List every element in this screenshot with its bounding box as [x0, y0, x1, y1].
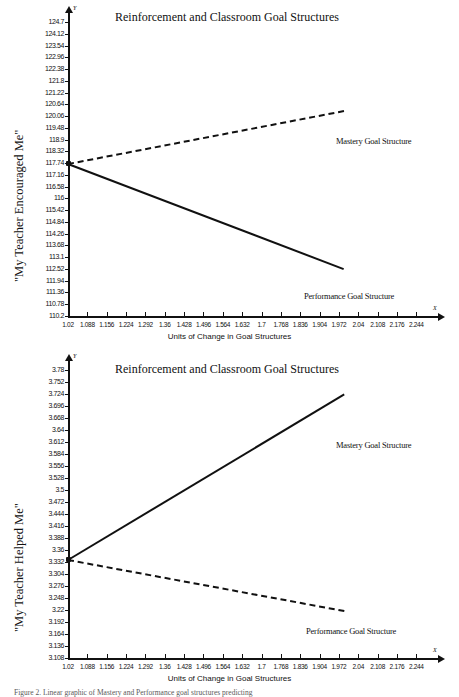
y-axis-tick-label: 3.696 — [22, 402, 64, 409]
y-axis-tick — [65, 514, 69, 515]
x-axis-tick — [126, 654, 127, 658]
x-axis-tick — [262, 654, 263, 658]
y-axis-tick-label: 116 — [22, 194, 64, 201]
y-axis-tick — [65, 526, 69, 527]
y-axis-tick — [65, 245, 69, 246]
y-axis-tick — [65, 478, 69, 479]
y-axis-tick-label: 3.22 — [22, 606, 64, 613]
x-axis-tick — [126, 312, 127, 316]
y-axis-tick — [65, 269, 69, 270]
y-axis-tick — [65, 234, 69, 235]
x-axis-tick — [378, 654, 379, 658]
series-line-performance — [68, 559, 344, 612]
y-axis-tick — [65, 406, 69, 407]
y-axis-tick-label: 3.668 — [22, 414, 64, 421]
x-axis-tick — [262, 312, 263, 316]
chart-helped-me: YX3.783.7523.7243.6963.6683.643.6123.584… — [0, 350, 459, 697]
y-axis-tick — [65, 116, 69, 117]
series-label-mastery: Mastery Goal Structure — [336, 440, 411, 450]
y-axis-tick — [65, 382, 69, 383]
y-axis-tick-label: 3.528 — [22, 474, 64, 481]
series-label-performance: Performance Goal Structure — [306, 626, 396, 636]
x-axis-tick — [358, 654, 359, 658]
y-axis-tick — [65, 598, 69, 599]
x-axis-tick — [358, 312, 359, 316]
x-axis-arrow-icon — [438, 655, 445, 663]
y-axis-tick — [65, 104, 69, 105]
y-axis-tick-label: 3.332 — [22, 558, 64, 565]
y-axis-tick — [65, 151, 69, 152]
y-axis-tick-label: 3.556 — [22, 462, 64, 469]
y-axis-tick-label: 3.388 — [22, 534, 64, 541]
y-axis-tick-label: 118.32 — [22, 147, 64, 154]
x-axis-tick — [223, 654, 224, 658]
y-axis-tick — [65, 454, 69, 455]
y-axis-tick — [65, 198, 69, 199]
series-line-mastery — [67, 394, 344, 561]
x-axis-tick-label: 2.244 — [402, 663, 430, 670]
y-axis-tick-label: 3.248 — [22, 594, 64, 601]
y-axis-tick — [65, 187, 69, 188]
x-axis-tick — [223, 312, 224, 316]
y-axis-tick — [65, 222, 69, 223]
y-axis-tick — [65, 646, 69, 647]
y-axis-letter: Y — [73, 5, 76, 11]
y-axis-tick — [65, 316, 69, 317]
y-axis-tick-label: 3.164 — [22, 630, 64, 637]
chart-encouraged-me: YX124.7124.12123.54122.96122.38121.8121.… — [0, 0, 459, 348]
x-axis-tick — [203, 312, 204, 316]
y-axis-tick-label: 3.5 — [22, 486, 64, 493]
y-axis-tick — [65, 257, 69, 258]
y-axis-tick-label: 3.136 — [22, 642, 64, 649]
y-axis-tick-label: 3.724 — [22, 390, 64, 397]
x-axis-tick — [281, 312, 282, 316]
y-axis-tick-label: 120.64 — [22, 100, 64, 107]
y-axis-tick — [65, 57, 69, 58]
y-axis-tick-label: 120.06 — [22, 112, 64, 119]
y-axis-tick-label: 123.54 — [22, 42, 64, 49]
y-axis-tick — [65, 46, 69, 47]
series-label-performance: Performance Goal Structure — [304, 291, 394, 301]
y-axis-arrow-icon — [65, 354, 73, 361]
x-axis-tick — [320, 312, 321, 316]
y-axis-tick — [65, 574, 69, 575]
y-axis-tick — [65, 304, 69, 305]
y-axis-tick — [65, 370, 69, 371]
figure-caption: Figure 2. Linear graphic of Mastery and … — [14, 688, 446, 697]
x-axis-tick — [107, 312, 108, 316]
x-axis-tick — [397, 654, 398, 658]
y-axis-tick-label: 3.108 — [22, 654, 64, 661]
y-axis-tick — [65, 442, 69, 443]
x-axis-tick — [87, 312, 88, 316]
x-axis-tick — [165, 312, 166, 316]
y-axis-tick — [65, 586, 69, 587]
y-axis-tick-label: 122.96 — [22, 53, 64, 60]
y-axis-tick-label: 110.2 — [22, 312, 64, 319]
y-axis-tick-label: 3.584 — [22, 450, 64, 457]
y-axis-tick-label: 113.68 — [22, 241, 64, 248]
series-origin-marker — [66, 161, 71, 166]
y-axis-tick — [65, 93, 69, 94]
y-axis-tick — [65, 140, 69, 141]
x-axis-arrow-icon — [438, 313, 445, 321]
x-axis-tick — [300, 312, 301, 316]
y-axis-tick-label: 110.78 — [22, 300, 64, 307]
x-axis-tick — [281, 654, 282, 658]
x-axis-title: Units of Change in Goal Structures — [0, 332, 459, 341]
y-axis-tick — [65, 634, 69, 635]
y-axis-tick — [65, 562, 69, 563]
x-axis-tick — [184, 654, 185, 658]
y-axis-tick-label: 3.192 — [22, 618, 64, 625]
y-axis-tick-label: 117.74 — [22, 159, 64, 166]
y-axis-tick-label: 3.752 — [22, 378, 64, 385]
y-axis-tick-label: 113.1 — [22, 253, 64, 260]
x-axis-tick — [68, 312, 69, 316]
y-axis-tick — [65, 550, 69, 551]
y-axis-tick-label: 119.48 — [22, 124, 64, 131]
series-label-mastery: Mastery Goal Structure — [336, 136, 411, 146]
x-axis-tick — [165, 654, 166, 658]
x-axis-letter: X — [433, 647, 437, 653]
y-axis-tick-label: 124.7 — [22, 18, 64, 25]
y-axis-tick — [65, 502, 69, 503]
x-axis-tick — [339, 312, 340, 316]
